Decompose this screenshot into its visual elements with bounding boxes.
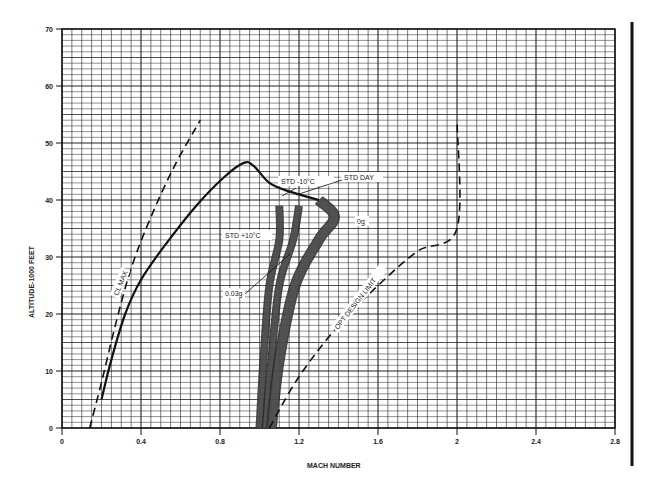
std-day-label: STD DAY [344, 174, 374, 181]
x-tick-label: 2 [455, 438, 459, 445]
y-tick-label: 60 [45, 83, 53, 90]
y-tick-label: 40 [45, 197, 53, 204]
x-axis-label: MACH NUMBER [307, 462, 361, 469]
x-tick-label: 1.6 [373, 438, 383, 445]
chart-grid [62, 29, 615, 428]
x-tick-label: 0.8 [215, 438, 225, 445]
y-axis-ticks: 010203040506070 [45, 26, 62, 432]
std-plus10-label: STD +10°C [225, 232, 261, 239]
annotations: STD -10°C STD DAY STD +10°C 0g 0.03g CL … [110, 172, 388, 333]
x-axis-ticks: 00.40.81.21.622.42.8 [60, 428, 620, 445]
g003-label: 0.03g [225, 290, 243, 298]
y-tick-label: 20 [45, 311, 53, 318]
y-tick-label: 50 [45, 140, 53, 147]
x-tick-label: 0.4 [136, 438, 146, 445]
y-tick-label: 0 [49, 425, 53, 432]
y-tick-label: 10 [45, 368, 53, 375]
std-minus10-label: STD -10°C [281, 178, 315, 185]
x-tick-label: 0 [60, 438, 64, 445]
x-tick-label: 2.4 [531, 438, 541, 445]
y-tick-label: 70 [45, 26, 53, 33]
zero-g-label: 0g [357, 218, 365, 226]
y-axis-label: ALTITUDE-1000 FEET [28, 245, 35, 318]
x-tick-label: 1.2 [294, 438, 304, 445]
opt-design-limit-label: OPT DESIGN LIMIT [333, 276, 378, 330]
x-tick-label: 2.8 [610, 438, 620, 445]
flight-envelope-chart: 010203040506070 00.40.81.21.622.42.8 MAC… [0, 0, 649, 494]
y-tick-label: 30 [45, 254, 53, 261]
